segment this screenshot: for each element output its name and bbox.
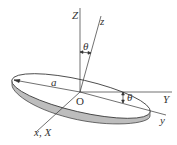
label-theta-right: θ	[127, 91, 133, 103]
label-Y: Y	[163, 93, 171, 105]
z-axis	[80, 16, 101, 92]
label-origin: O	[76, 95, 84, 107]
label-Z: Z	[72, 9, 79, 21]
label-y: y	[159, 114, 165, 126]
label-theta-top: θ	[83, 40, 89, 52]
disc-diagram: Z z θ a O Y θ y x, X	[0, 0, 177, 145]
label-x-X: x, X	[33, 126, 52, 138]
label-a: a	[51, 76, 57, 88]
label-z: z	[99, 15, 105, 27]
